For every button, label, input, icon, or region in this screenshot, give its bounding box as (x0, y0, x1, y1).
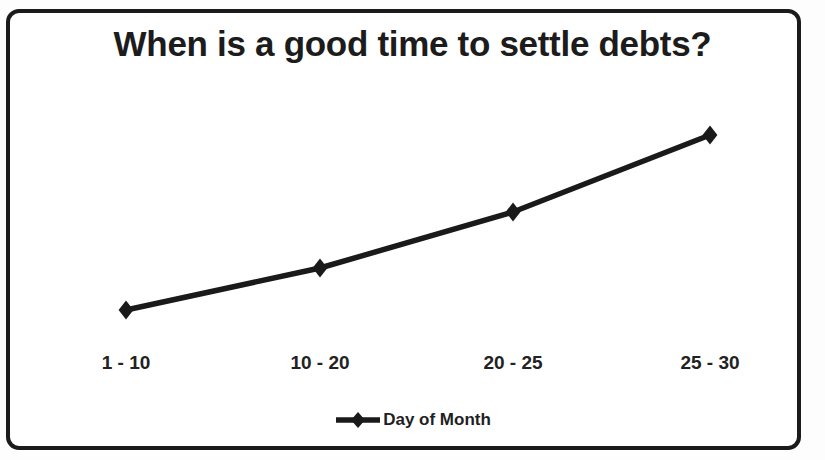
data-point-marker (506, 203, 521, 222)
line-series-day-of-month (0, 0, 825, 460)
series-line-path (126, 135, 710, 310)
chart-figure: When is a good time to settle debts? 1 -… (0, 0, 825, 460)
chart-legend: Day of Month (0, 409, 825, 431)
legend-line-diamond-marker-icon (334, 409, 382, 431)
data-point-marker (313, 259, 328, 278)
x-tick-label: 20 - 25 (483, 352, 542, 374)
data-point-marker (119, 301, 134, 320)
x-tick-label: 1 - 10 (102, 352, 151, 374)
legend-label-day-of-month: Day of Month (383, 410, 491, 430)
x-tick-label: 10 - 20 (290, 352, 349, 374)
x-axis-tick-labels: 1 - 1010 - 2020 - 2525 - 30 (0, 352, 825, 382)
legend-entry-day-of-month: Day of Month (334, 409, 491, 431)
plot-area (0, 0, 825, 460)
x-tick-label: 25 - 30 (680, 352, 739, 374)
data-point-marker (703, 126, 718, 145)
